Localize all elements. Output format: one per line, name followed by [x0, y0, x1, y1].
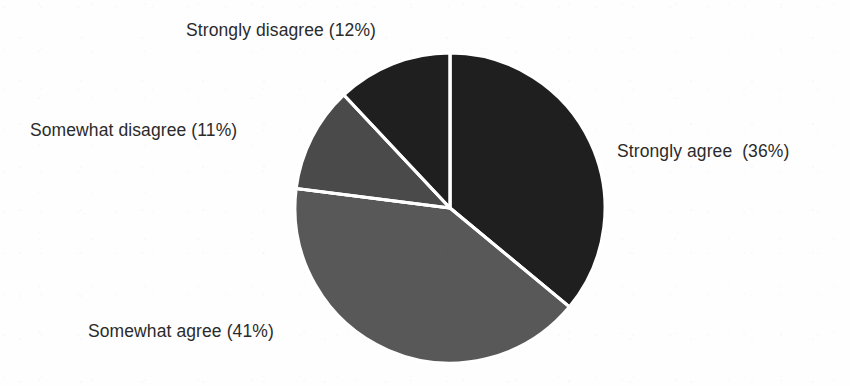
slice-label-strongly-disagree: Strongly disagree (12%) [186, 22, 376, 40]
slice-label-somewhat-disagree: Somewhat disagree (11%) [30, 122, 237, 140]
slice-label-strongly-agree: Strongly agree (36%) [617, 143, 789, 161]
slice-label-somewhat-agree: Somewhat agree (41%) [88, 323, 274, 341]
pie-chart-page: Strongly disagree (12%) Somewhat disagre… [0, 0, 850, 386]
pie-chart: Strongly disagree (12%) Somewhat disagre… [0, 0, 850, 386]
